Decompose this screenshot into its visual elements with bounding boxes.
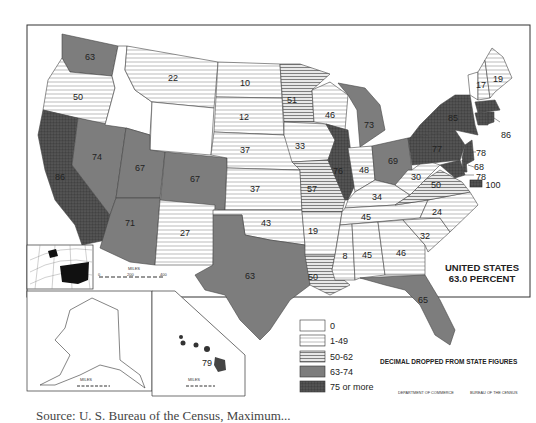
svg-text:33: 33 — [295, 141, 305, 151]
svg-text:76: 76 — [333, 166, 343, 176]
svg-text:MILES: MILES — [188, 377, 200, 382]
svg-text:45: 45 — [361, 212, 371, 222]
svg-text:67: 67 — [190, 174, 200, 184]
state-ia — [284, 122, 335, 162]
state-ri — [488, 112, 494, 124]
svg-text:30: 30 — [411, 172, 421, 182]
svg-text:100: 100 — [485, 180, 500, 190]
state-de — [462, 160, 467, 172]
svg-text:65: 65 — [418, 295, 428, 305]
legend: 0 1-49 50-62 63-74 75 or more — [300, 320, 374, 392]
svg-text:50: 50 — [308, 272, 318, 282]
svg-text:78: 78 — [476, 148, 486, 158]
state-wy — [150, 102, 214, 155]
svg-text:77: 77 — [432, 144, 442, 154]
svg-text:75 or more: 75 or more — [330, 382, 374, 392]
svg-text:86: 86 — [501, 130, 511, 140]
svg-text:MILES: MILES — [128, 266, 140, 271]
svg-text:46: 46 — [325, 110, 335, 120]
svg-text:24: 24 — [432, 207, 442, 217]
svg-text:10: 10 — [240, 78, 250, 88]
decimal-note: DECIMAL DROPPED FROM STATE FIGURES — [380, 358, 518, 365]
svg-text:0: 0 — [330, 321, 335, 331]
svg-text:8: 8 — [342, 251, 347, 261]
svg-text:57: 57 — [307, 184, 317, 194]
svg-text:73: 73 — [364, 120, 374, 130]
svg-text:71: 71 — [125, 218, 135, 228]
svg-text:69: 69 — [388, 156, 398, 166]
svg-text:19: 19 — [308, 226, 318, 236]
svg-text:48: 48 — [359, 165, 369, 175]
census-map: 63 50 86 74 22 67 67 71 27 10 12 37 37 4… — [0, 0, 536, 423]
svg-text:63: 63 — [85, 52, 95, 62]
svg-text:74: 74 — [92, 152, 102, 162]
svg-text:34: 34 — [372, 192, 382, 202]
svg-text:37: 37 — [250, 184, 260, 194]
svg-text:51: 51 — [287, 95, 297, 105]
us-percent: 63.0 PERCENT — [449, 273, 516, 284]
hawaii-inset: 79 MILES — [152, 291, 245, 396]
svg-text:43: 43 — [261, 218, 271, 228]
svg-text:63: 63 — [245, 271, 255, 281]
us-title: UNITED STATES — [445, 262, 519, 273]
svg-text:32: 32 — [420, 231, 430, 241]
svg-text:68: 68 — [474, 162, 484, 172]
svg-text:1-49: 1-49 — [330, 336, 348, 346]
svg-text:12: 12 — [239, 112, 249, 122]
alaska-inset: MILES — [27, 291, 152, 391]
svg-text:27: 27 — [180, 228, 190, 238]
svg-text:MILES: MILES — [80, 377, 92, 382]
svg-text:22: 22 — [168, 73, 178, 83]
svg-text:17: 17 — [476, 80, 486, 90]
globe-inset — [27, 245, 93, 289]
svg-text:46: 46 — [396, 248, 406, 258]
svg-text:50: 50 — [73, 92, 83, 102]
svg-text:50: 50 — [431, 180, 441, 190]
svg-text:45: 45 — [362, 250, 372, 260]
svg-text:86: 86 — [55, 172, 65, 182]
svg-text:85: 85 — [448, 113, 458, 123]
credit-commerce: DEPARTMENT OF COMMERCE — [398, 391, 454, 395]
state-ks — [225, 168, 302, 210]
credit-census: BUREAU OF THE CENSUS — [470, 391, 518, 395]
svg-text:19: 19 — [493, 74, 503, 84]
svg-text:67: 67 — [135, 163, 145, 173]
svg-text:50-62: 50-62 — [330, 352, 353, 362]
svg-text:63-74: 63-74 — [330, 367, 353, 377]
svg-text:400: 400 — [160, 272, 167, 277]
svg-text:79: 79 — [202, 358, 212, 368]
svg-text:37: 37 — [240, 145, 250, 155]
source-caption: Source: U. S. Bureau of the Census, Maxi… — [36, 408, 291, 423]
svg-text:200: 200 — [127, 272, 134, 277]
